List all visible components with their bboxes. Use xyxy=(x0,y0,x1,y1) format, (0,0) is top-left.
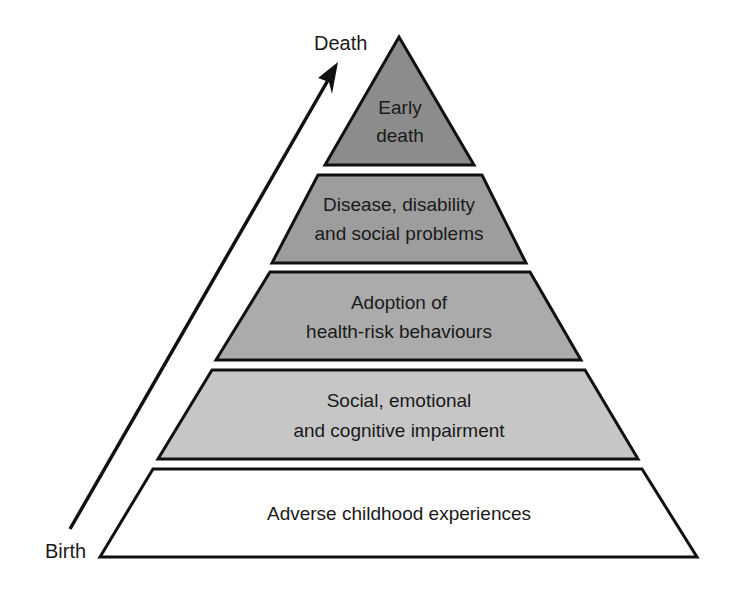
death-label: Death xyxy=(314,32,367,54)
birth-label: Birth xyxy=(45,540,86,562)
tier-early-death: Early death xyxy=(325,37,474,165)
tier-disease-disability: Disease, disability and social problems xyxy=(272,175,526,263)
tier-3-shape xyxy=(216,272,581,360)
tier-1-line-2: death xyxy=(376,125,424,146)
tier-4-line-1: Social, emotional xyxy=(327,390,472,411)
tier-4-line-2: and cognitive impairment xyxy=(293,420,505,441)
tier-3-line-2: health-risk behaviours xyxy=(306,321,492,342)
tier-2-line-1: Disease, disability xyxy=(323,194,476,215)
tier-4-shape xyxy=(158,370,638,459)
ace-pyramid-diagram: Death Birth Early death Disease, disabil… xyxy=(0,0,731,596)
tier-social-emotional-cognitive: Social, emotional and cognitive impairme… xyxy=(158,370,638,459)
tier-3-line-1: Adoption of xyxy=(351,292,448,313)
tier-2-shape xyxy=(272,175,526,263)
tier-1-line-1: Early xyxy=(378,97,422,118)
tier-adverse-childhood-experiences: Adverse childhood experiences xyxy=(100,469,697,557)
tier-5-line-1: Adverse childhood experiences xyxy=(267,503,531,524)
tier-2-line-2: and social problems xyxy=(315,223,484,244)
tier-health-risk-behaviours: Adoption of health-risk behaviours xyxy=(216,272,581,360)
